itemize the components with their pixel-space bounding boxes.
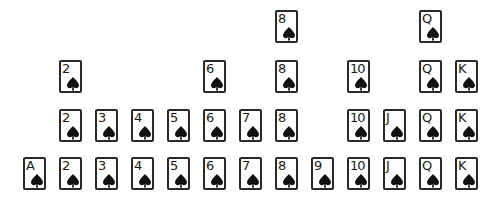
card-rank: 6 [206, 110, 213, 125]
spade-icon [463, 173, 475, 187]
card-rank: K [458, 110, 466, 125]
spade-icon [67, 125, 79, 139]
card-k-of-spades[interactable]: K [455, 109, 478, 142]
card-6-of-spades[interactable]: 6 [203, 60, 226, 93]
card-rank: 10 [350, 110, 365, 125]
spade-icon [103, 125, 115, 139]
card-rank: 10 [350, 61, 365, 76]
card-rank: 2 [62, 110, 69, 125]
spade-icon [463, 76, 475, 90]
spade-icon [139, 173, 151, 187]
card-7-of-spades[interactable]: 7 [239, 109, 262, 142]
spade-icon [247, 125, 259, 139]
card-5-of-spades[interactable]: 5 [167, 109, 190, 142]
card-rank: 7 [242, 158, 249, 173]
card-4-of-spades[interactable]: 4 [131, 157, 154, 190]
spade-icon [211, 125, 223, 139]
card-8-of-spades[interactable]: 8 [275, 60, 298, 93]
spade-icon [247, 173, 259, 187]
card-rank: 3 [98, 158, 105, 173]
card-rank: A [26, 158, 34, 173]
card-10-of-spades[interactable]: 10 [347, 60, 370, 93]
card-rank: J [386, 110, 389, 125]
spade-icon [355, 76, 367, 90]
card-9-of-spades[interactable]: 9 [311, 157, 334, 190]
spade-icon [67, 173, 79, 187]
card-2-of-spades[interactable]: 2 [59, 60, 82, 93]
card-board: 8Q26810QK234567810JQKA2345678910JQK [0, 0, 498, 202]
spade-icon [283, 125, 295, 139]
spade-icon [427, 125, 439, 139]
card-j-of-spades[interactable]: J [383, 109, 406, 142]
card-q-of-spades[interactable]: Q [419, 10, 442, 43]
card-rank: 3 [98, 110, 105, 125]
card-q-of-spades[interactable]: Q [419, 60, 442, 93]
card-rank: 8 [278, 158, 285, 173]
spade-icon [427, 26, 439, 40]
card-k-of-spades[interactable]: K [455, 60, 478, 93]
card-2-of-spades[interactable]: 2 [59, 157, 82, 190]
card-q-of-spades[interactable]: Q [419, 109, 442, 142]
card-rank: 8 [278, 61, 285, 76]
card-rank: Q [422, 61, 431, 76]
card-10-of-spades[interactable]: 10 [347, 157, 370, 190]
card-8-of-spades[interactable]: 8 [275, 10, 298, 43]
spade-icon [31, 173, 43, 187]
spade-icon [103, 173, 115, 187]
spade-icon [463, 125, 475, 139]
card-rank: 8 [278, 110, 285, 125]
spade-icon [319, 173, 331, 187]
card-3-of-spades[interactable]: 3 [95, 157, 118, 190]
card-j-of-spades[interactable]: J [383, 157, 406, 190]
card-rank: 5 [170, 110, 177, 125]
card-3-of-spades[interactable]: 3 [95, 109, 118, 142]
card-2-of-spades[interactable]: 2 [59, 109, 82, 142]
card-rank: Q [422, 11, 431, 26]
card-6-of-spades[interactable]: 6 [203, 109, 226, 142]
card-rank: 9 [314, 158, 321, 173]
card-k-of-spades[interactable]: K [455, 157, 478, 190]
spade-icon [211, 173, 223, 187]
spade-icon [355, 173, 367, 187]
card-5-of-spades[interactable]: 5 [167, 157, 190, 190]
card-rank: 6 [206, 61, 213, 76]
card-rank: 7 [242, 110, 249, 125]
card-6-of-spades[interactable]: 6 [203, 157, 226, 190]
spade-icon [427, 173, 439, 187]
spade-icon [211, 76, 223, 90]
card-rank: 4 [134, 158, 141, 173]
card-10-of-spades[interactable]: 10 [347, 109, 370, 142]
spade-icon [175, 173, 187, 187]
card-rank: 8 [278, 11, 285, 26]
card-rank: 10 [350, 158, 365, 173]
card-8-of-spades[interactable]: 8 [275, 157, 298, 190]
card-8-of-spades[interactable]: 8 [275, 109, 298, 142]
card-rank: Q [422, 158, 431, 173]
spade-icon [67, 76, 79, 90]
card-a-of-spades[interactable]: A [23, 157, 46, 190]
card-rank: 2 [62, 61, 69, 76]
card-rank: 4 [134, 110, 141, 125]
card-q-of-spades[interactable]: Q [419, 157, 442, 190]
spade-icon [283, 26, 295, 40]
card-rank: J [386, 158, 389, 173]
card-7-of-spades[interactable]: 7 [239, 157, 262, 190]
card-rank: 2 [62, 158, 69, 173]
card-rank: 5 [170, 158, 177, 173]
card-rank: Q [422, 110, 431, 125]
card-rank: K [458, 158, 466, 173]
card-rank: K [458, 61, 466, 76]
spade-icon [175, 125, 187, 139]
spade-icon [355, 125, 367, 139]
spade-icon [391, 125, 403, 139]
spade-icon [139, 125, 151, 139]
card-4-of-spades[interactable]: 4 [131, 109, 154, 142]
spade-icon [391, 173, 403, 187]
spade-icon [427, 76, 439, 90]
card-rank: 6 [206, 158, 213, 173]
spade-icon [283, 173, 295, 187]
spade-icon [283, 76, 295, 90]
